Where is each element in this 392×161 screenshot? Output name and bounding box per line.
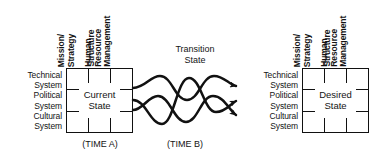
col-label-left-mission-l2: Strategy — [66, 34, 76, 67]
col-label-right-mission-l2: Strategy — [302, 34, 312, 67]
col-label-left-mission: Mission/ Strategy — [57, 34, 76, 67]
tick-r-bottom-1 — [324, 118, 325, 132]
col-label-right-mission: Mission/ Strategy — [293, 34, 312, 67]
col-label-wrap-right-mission: Mission/ Strategy — [312, 66, 313, 67]
row-label-r-technical-2: System — [238, 80, 298, 90]
col-label-left-hrm: Human Resource Management — [84, 16, 113, 67]
col-label-wrap-left-hrm: Human Resource Management — [113, 66, 114, 67]
row-labels-left: Technical System Political System Cultur… — [2, 70, 62, 131]
current-state-box: Current State — [66, 68, 133, 133]
row-label-political-2: System — [2, 101, 62, 111]
row-label-cultural-2: System — [2, 121, 62, 131]
row-label-technical-2: System — [2, 80, 62, 90]
tick-bottom-2 — [110, 118, 111, 132]
tick-r-bottom-2 — [346, 118, 347, 132]
strand-1 — [133, 76, 236, 100]
diagram-canvas: Technical System Political System Cultur… — [0, 0, 392, 161]
col-label-right-hrm-l3: Management — [339, 16, 349, 67]
time-a-label: (TIME A) — [60, 139, 140, 150]
time-b-label: (TIME B) — [145, 139, 225, 150]
tick-r-top-2 — [346, 69, 347, 83]
desired-state-box: Desired State — [302, 68, 369, 133]
col-label-left-hrm-l3: Management — [103, 16, 113, 67]
strand-3 — [133, 96, 236, 122]
transition-state-label: Transition State — [150, 44, 240, 66]
row-label-r-cultural-1: Cultural — [238, 111, 298, 121]
desired-state-caption-l2: State — [303, 100, 368, 111]
row-label-r-technical-1: Technical — [238, 70, 298, 80]
current-state-caption: Current State — [67, 89, 132, 111]
tick-r-top-1 — [324, 69, 325, 83]
row-labels-right: Technical System Political System Cultur… — [238, 70, 298, 131]
col-label-wrap-left-mission: Mission/ Strategy — [76, 66, 77, 67]
col-label-wrap-right-hrm: Human Resource Management — [349, 66, 350, 67]
row-label-r-political-1: Political — [238, 90, 298, 100]
current-state-caption-l1: Current — [67, 89, 132, 100]
row-label-technical-1: Technical — [2, 70, 62, 80]
row-label-cultural-1: Cultural — [2, 111, 62, 121]
transition-state-label-l1: Transition — [150, 44, 240, 55]
tick-bottom-1 — [88, 118, 89, 132]
current-state-caption-l2: State — [67, 100, 132, 111]
desired-state-caption: Desired State — [303, 89, 368, 111]
row-label-r-cultural-2: System — [238, 121, 298, 131]
desired-state-caption-l1: Desired — [303, 89, 368, 100]
transition-state-label-l2: State — [150, 55, 240, 66]
tick-top-1 — [88, 69, 89, 83]
row-label-political-1: Political — [2, 90, 62, 100]
row-label-r-political-2: System — [238, 101, 298, 111]
strand-2 — [133, 78, 236, 124]
col-label-right-hrm: Human Resource Management — [320, 16, 349, 67]
tick-top-2 — [110, 69, 111, 83]
